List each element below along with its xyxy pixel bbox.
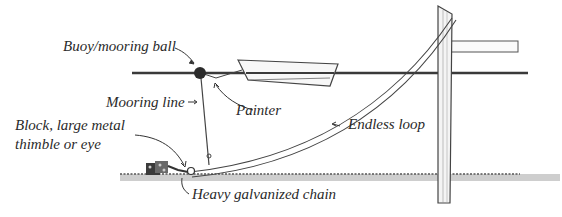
label-mooring-line: Mooring line [106, 94, 185, 111]
label-painter: Painter [236, 102, 281, 119]
label-block-line1: Block, large metal [15, 117, 125, 134]
seabed [120, 174, 560, 181]
endless-loop [190, 18, 456, 177]
label-buoy: Buoy/mooring ball [63, 38, 176, 55]
pulley-block [188, 168, 195, 175]
dinghy [238, 60, 338, 86]
label-endless-loop: Endless loop [348, 116, 425, 133]
label-block-line2: thimble or eye [15, 136, 101, 153]
buoy [194, 67, 206, 79]
mooring-line [201, 78, 209, 165]
mooring-diagram: Buoy/mooring ball Mooring line Painter E… [0, 0, 562, 217]
label-chain: Heavy galvanized chain [192, 186, 336, 203]
diagram-canvas [0, 0, 562, 217]
